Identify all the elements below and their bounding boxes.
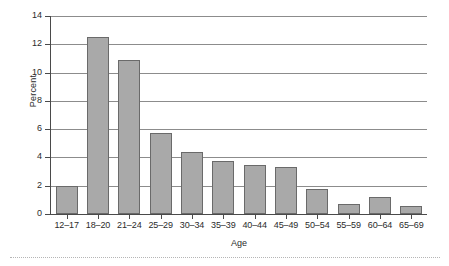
y-tick-label-14: 14 bbox=[18, 11, 42, 20]
x-tick-label-65–69: 65–69 bbox=[389, 221, 433, 230]
bar-50–54 bbox=[306, 189, 328, 214]
y-axis-title: Percent bbox=[28, 51, 38, 131]
gridline-0 bbox=[51, 214, 427, 215]
gridline-14 bbox=[51, 16, 427, 17]
plot-area bbox=[51, 16, 427, 214]
x-tick-18–20 bbox=[98, 215, 99, 219]
x-tick-30–34 bbox=[192, 215, 193, 219]
y-tick-label-8: 8 bbox=[18, 96, 42, 105]
bar-30–34 bbox=[181, 152, 203, 214]
x-tick-35–39 bbox=[223, 215, 224, 219]
x-tick-21–24 bbox=[129, 215, 130, 219]
bar-18–20 bbox=[87, 37, 109, 214]
y-tick-label-0: 0 bbox=[18, 209, 42, 218]
bar-60–64 bbox=[369, 197, 391, 214]
bar-12–17 bbox=[56, 186, 78, 214]
y-tick-8 bbox=[45, 101, 50, 102]
y-tick-10 bbox=[45, 73, 50, 74]
bar-35–39 bbox=[212, 161, 234, 214]
x-tick-65–69 bbox=[411, 215, 412, 219]
y-tick-4 bbox=[45, 157, 50, 158]
bar-40–44 bbox=[244, 165, 266, 214]
y-tick-12 bbox=[45, 44, 50, 45]
bar-65–69 bbox=[400, 206, 422, 214]
y-tick-label-12: 12 bbox=[18, 39, 42, 48]
x-tick-40–44 bbox=[255, 215, 256, 219]
x-tick-25–29 bbox=[161, 215, 162, 219]
x-tick-45–49 bbox=[286, 215, 287, 219]
y-tick-label-10: 10 bbox=[18, 68, 42, 77]
x-tick-50–54 bbox=[317, 215, 318, 219]
x-axis-title: Age bbox=[51, 238, 427, 248]
y-tick-6 bbox=[45, 129, 50, 130]
bar-55–59 bbox=[338, 204, 360, 214]
footer-dotted-rule bbox=[10, 257, 440, 259]
bar-45–49 bbox=[275, 167, 297, 214]
y-tick-label-2: 2 bbox=[18, 181, 42, 190]
bar-chart-figure: Percent Age 0246810121412–1718–2021–2425… bbox=[0, 0, 449, 266]
y-tick-14 bbox=[45, 16, 50, 17]
x-tick-60–64 bbox=[380, 215, 381, 219]
x-tick-12–17 bbox=[67, 215, 68, 219]
bar-21–24 bbox=[118, 60, 140, 214]
bar-25–29 bbox=[150, 133, 172, 214]
x-tick-55–59 bbox=[349, 215, 350, 219]
y-tick-2 bbox=[45, 186, 50, 187]
y-tick-label-6: 6 bbox=[18, 124, 42, 133]
y-tick-label-4: 4 bbox=[18, 152, 42, 161]
y-tick-0 bbox=[45, 214, 50, 215]
